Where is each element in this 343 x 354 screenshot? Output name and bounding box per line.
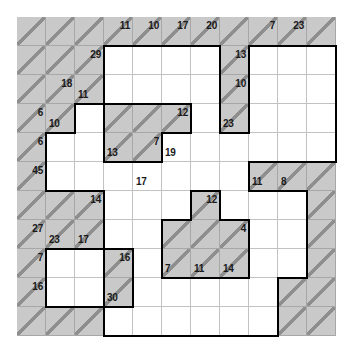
clue-cell-r6c10 [307,191,336,220]
answer-cell-r1c6[interactable] [191,46,220,75]
outline-left-r9c4 [132,277,134,308]
answer-cell-r4c6[interactable] [191,133,220,162]
answer-cell-r6c5[interactable] [162,191,191,220]
answer-cell-r6c3[interactable] [104,191,133,220]
outline-top-r1c9 [277,45,308,47]
answer-cell-r6c4[interactable] [133,191,162,220]
clue-r9c0-down: 16 [17,278,46,307]
answer-cell-r8c4[interactable] [133,249,162,278]
answer-cell-r10c7[interactable] [220,307,249,336]
clue-r5c4-across: 17 [133,162,162,191]
outline-top-r5c3 [103,161,134,163]
answer-cell-r4c8[interactable] [249,133,278,162]
answer-cell-r4c2[interactable] [75,133,104,162]
answer-cell-r3c2[interactable] [75,104,104,133]
outline-left-r6c3 [103,190,105,221]
answer-cell-r8c8[interactable] [249,249,278,278]
outline-top-r9c6 [190,277,221,279]
outline-left-r8c8 [248,248,250,279]
answer-cell-r2c8[interactable] [249,75,278,104]
answer-cell-r1c10[interactable] [307,46,336,75]
outline-top-r1c10 [306,45,337,47]
answer-cell-r9c6[interactable] [191,278,220,307]
answer-cell-r2c10[interactable] [307,75,336,104]
clue-r0c6-down: 20 [191,17,220,46]
answer-cell-r9c8[interactable] [249,278,278,307]
answer-cell-r1c4[interactable] [133,46,162,75]
answer-cell-r4c1[interactable] [46,133,75,162]
answer-cell-r3c9[interactable] [278,104,307,133]
answer-cell-r7c9[interactable] [278,220,307,249]
outline-right-r7c9 [306,219,308,250]
answer-cell-r3c10[interactable] [307,104,336,133]
answer-cell-r3c8[interactable] [249,104,278,133]
answer-cell-r1c9[interactable] [278,46,307,75]
answer-cell-r2c9[interactable] [278,75,307,104]
answer-cell-r5c5[interactable] [162,162,191,191]
answer-cell-r10c5[interactable] [162,307,191,336]
answer-cell-r2c5[interactable] [162,75,191,104]
answer-cell-r4c10[interactable] [307,133,336,162]
answer-cell-r1c3[interactable] [104,46,133,75]
answer-cell-r10c3[interactable] [104,307,133,336]
outline-right-r3c6 [219,103,221,134]
outline-right-r8c4 [161,248,163,279]
clue-r6c2-down-value: 14 [90,195,101,205]
clue-r6c6-down-value: 12 [206,195,217,205]
answer-cell-r5c1[interactable] [46,162,75,191]
answer-cell-r9c2[interactable] [75,278,104,307]
outline-bottom-r10c8 [248,335,279,337]
outline-right-r7c4 [161,219,163,250]
answer-cell-r7c4[interactable] [133,220,162,249]
outline-top-r1c4 [132,45,163,47]
clue-r3c1-across-value: 10 [49,119,60,129]
answer-cell-r1c5[interactable] [162,46,191,75]
answer-cell-r4c9[interactable] [278,133,307,162]
answer-cell-r7c8[interactable] [249,220,278,249]
answer-cell-r8c1[interactable] [46,249,75,278]
answer-cell-r6c9[interactable] [278,191,307,220]
clue-cell-r9c9 [278,278,307,307]
answer-cell-r4c7[interactable] [220,133,249,162]
clue-r8c3-down: 16 [104,249,133,278]
clue-r3c5-down: 12 [162,104,191,133]
answer-cell-r5c3[interactable] [104,162,133,191]
answer-cell-r1c8[interactable] [249,46,278,75]
answer-cell-r9c4[interactable] [133,278,162,307]
clue-cell-r7c5 [162,220,191,249]
answer-cell-r3c6[interactable] [191,104,220,133]
clue-r2c2-across: 11 [75,75,104,104]
answer-cell-r10c4[interactable] [133,307,162,336]
clue-r4c3-across: 13 [104,133,133,162]
clue-cell-r6c1 [46,191,75,220]
answer-cell-r8c2[interactable] [75,249,104,278]
answer-cell-r2c3[interactable] [104,75,133,104]
outline-right-r4c10 [335,132,337,163]
clue-r4c4-down: 7 [133,133,162,162]
outline-bottom-r10c5 [161,335,192,337]
answer-cell-r5c2[interactable] [75,162,104,191]
clue-r5c9-across-value: 8 [281,177,286,187]
outline-right-r1c10 [335,45,337,76]
answer-cell-r9c7[interactable] [220,278,249,307]
answer-cell-r8c9[interactable] [278,249,307,278]
clue-r1c2-down: 29 [75,46,104,75]
answer-cell-r7c3[interactable] [104,220,133,249]
answer-cell-r10c8[interactable] [249,307,278,336]
kakuro-grid[interactable]: 1110172072329131811106102312613197451711… [17,17,336,336]
answer-cell-r9c1[interactable] [46,278,75,307]
answer-cell-r10c6[interactable] [191,307,220,336]
answer-cell-r5c7[interactable] [220,162,249,191]
answer-cell-r6c7[interactable] [220,191,249,220]
answer-cell-r5c6[interactable] [191,162,220,191]
outline-left-r6c7 [219,190,221,221]
answer-cell-r6c8[interactable] [249,191,278,220]
outline-right-r8c2 [103,248,105,279]
clue-cell-r9c10 [307,278,336,307]
answer-cell-r2c6[interactable] [191,75,220,104]
clue-r8c0-down: 7 [17,249,46,278]
answer-cell-r2c4[interactable] [133,75,162,104]
answer-cell-r9c5[interactable] [162,278,191,307]
clue-r0c4-down-value: 10 [148,21,159,31]
clue-r7c2-across: 17 [75,220,104,249]
